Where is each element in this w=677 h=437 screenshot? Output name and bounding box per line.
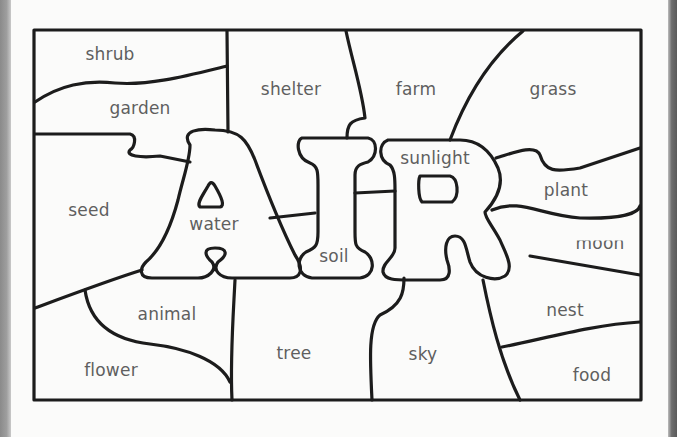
divider-tree-sky (370, 278, 404, 400)
region-label-shelter[interactable]: shelter (261, 79, 321, 99)
divider-moon-nest (530, 256, 640, 275)
divider-grass-plant (496, 148, 640, 170)
divider-garden-seed (35, 134, 190, 162)
letter-r-counter (419, 176, 457, 202)
divider-nest-food (502, 322, 640, 347)
region-label-nest[interactable]: nest (546, 300, 584, 320)
region-label-food[interactable]: food (573, 365, 611, 385)
region-label-farm[interactable]: farm (396, 79, 436, 99)
region-label-plant[interactable]: plant (544, 180, 588, 200)
divider-farm-grass (450, 31, 523, 140)
letter-a-counter (199, 183, 223, 207)
divider-sky-food (483, 280, 520, 400)
divider-shrub-garden (35, 66, 227, 102)
divider-animal-tree (231, 280, 235, 400)
region-label-grass[interactable]: grass (530, 79, 577, 99)
region-label-soil[interactable]: soil (319, 246, 349, 266)
divider-shelter-farm (346, 31, 365, 138)
region-label-sky[interactable]: sky (409, 344, 438, 364)
region-label-seed[interactable]: seed (68, 200, 109, 220)
region-label-garden[interactable]: garden (109, 98, 170, 118)
region-label-shrub[interactable]: shrub (85, 44, 134, 64)
divider-plant-moon (492, 206, 640, 218)
region-label-water[interactable]: water (189, 214, 238, 234)
region-label-sunlight[interactable]: sunlight (400, 148, 470, 168)
region-label-tree[interactable]: tree (277, 343, 312, 363)
region-label-flower[interactable]: flower (84, 360, 138, 380)
divider-garden-shelter (227, 31, 228, 132)
divider-soil-sunlight (355, 191, 395, 193)
region-label-animal[interactable]: animal (138, 304, 197, 324)
